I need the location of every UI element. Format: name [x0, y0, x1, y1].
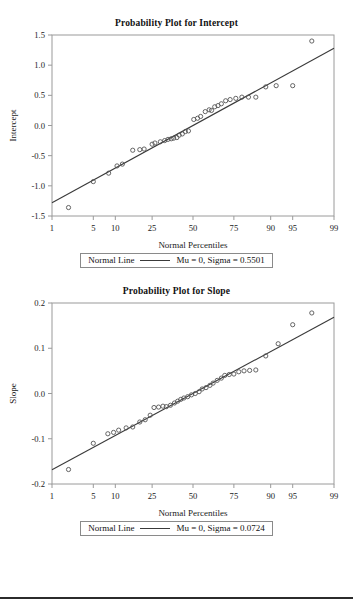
legend-line-swatch: [140, 260, 170, 261]
y-tick-label: 0.0: [34, 389, 45, 399]
x-tick-label: 25: [148, 491, 157, 501]
data-point: [291, 84, 295, 88]
data-point: [219, 102, 223, 106]
x-tick-label: 95: [288, 491, 297, 501]
y-tick-label: -1.5: [31, 211, 45, 221]
y-tick-label: 1.0: [34, 60, 45, 70]
y-tick-label: -1.0: [31, 181, 45, 191]
x-tick-label: 50: [189, 491, 198, 501]
data-point: [131, 148, 135, 152]
x-tick-label: 75: [230, 223, 239, 233]
data-point: [106, 432, 110, 436]
data-point: [152, 405, 156, 409]
legend-box: Normal Line Mu = 0, Sigma = 0.5501: [80, 253, 273, 268]
y-tick-label: -0.1: [31, 434, 45, 444]
probability-plot-slope: -0.2-0.10.00.10.21510255075909599Normal …: [0, 296, 353, 521]
data-point: [91, 441, 95, 445]
y-tick-label: 0.1: [34, 343, 45, 353]
y-axis-title: Intercept: [8, 109, 18, 141]
data-point: [291, 323, 295, 327]
data-point: [156, 405, 160, 409]
data-point: [310, 39, 314, 43]
x-tick-label: 1: [50, 223, 54, 233]
data-point: [138, 148, 142, 152]
x-tick-label: 5: [91, 491, 95, 501]
data-point: [254, 95, 258, 99]
data-point: [310, 311, 314, 315]
y-tick-label: -0.5: [31, 151, 45, 161]
y-tick-label: -0.2: [31, 479, 45, 489]
data-point: [254, 368, 258, 372]
x-tick-label: 99: [330, 223, 339, 233]
data-point: [66, 205, 70, 209]
data-point: [142, 147, 146, 151]
data-point: [228, 97, 232, 101]
chart-title-intercept: Probability Plot for Intercept: [0, 18, 353, 28]
legend-slope: Normal Line Mu = 0, Sigma = 0.0724: [0, 521, 353, 536]
plot-area-slope: -0.2-0.10.00.10.21510255075909599Normal …: [0, 296, 353, 521]
x-tick-label: 5: [91, 223, 95, 233]
legend-params-label: Mu = 0, Sigma = 0.5501: [176, 255, 264, 265]
legend-series-label: Normal Line: [88, 255, 134, 265]
probability-plot-intercept: -1.5-1.0-0.50.00.51.01.51510255075909599…: [0, 28, 353, 253]
x-tick-label: 90: [266, 223, 275, 233]
x-tick-label: 99: [330, 491, 339, 501]
data-point: [111, 430, 115, 434]
data-point: [242, 369, 246, 373]
x-tick-label: 1: [50, 491, 54, 501]
y-tick-label: 0.5: [34, 90, 45, 100]
legend-intercept: Normal Line Mu = 0, Sigma = 0.5501: [0, 253, 353, 268]
figure-intercept: Probability Plot for Intercept -1.5-1.0-…: [0, 0, 353, 268]
figure-slope: Probability Plot for Slope -0.2-0.10.00.…: [0, 268, 353, 536]
y-tick-label: 1.5: [34, 30, 45, 40]
legend-params-label: Mu = 0, Sigma = 0.0724: [176, 523, 264, 533]
data-point: [232, 372, 236, 376]
legend-line-swatch: [140, 528, 170, 529]
legend-box: Normal Line Mu = 0, Sigma = 0.0724: [80, 521, 273, 536]
data-point: [237, 370, 241, 374]
x-axis-title: Normal Percentiles: [158, 508, 228, 518]
y-axis-title: Slope: [8, 383, 18, 404]
data-point: [234, 96, 238, 100]
data-point: [276, 342, 280, 346]
chart-title-slope: Probability Plot for Slope: [0, 286, 353, 296]
data-point: [224, 99, 228, 103]
x-tick-label: 25: [148, 223, 157, 233]
x-tick-label: 75: [230, 491, 239, 501]
x-tick-label: 50: [189, 223, 198, 233]
x-tick-label: 10: [111, 491, 120, 501]
x-tick-label: 95: [288, 223, 297, 233]
data-point: [66, 467, 70, 471]
x-axis-title: Normal Percentiles: [158, 240, 228, 250]
page-divider: [0, 597, 353, 599]
y-tick-label: 0.2: [34, 298, 45, 308]
x-tick-label: 90: [266, 491, 275, 501]
data-point: [248, 368, 252, 372]
x-tick-label: 10: [111, 223, 120, 233]
data-point: [274, 84, 278, 88]
legend-series-label: Normal Line: [88, 523, 134, 533]
plot-area-intercept: -1.5-1.0-0.50.00.51.01.51510255075909599…: [0, 28, 353, 253]
data-point: [117, 428, 121, 432]
y-tick-label: 0.0: [34, 121, 45, 131]
